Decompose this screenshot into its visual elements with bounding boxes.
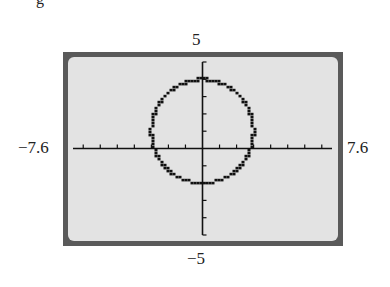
circle-pixel — [152, 137, 155, 140]
circle-pixel — [203, 77, 206, 80]
circle-pixel — [179, 83, 182, 86]
circle-pixel — [251, 143, 254, 146]
circle-pixel — [242, 98, 245, 101]
circle-pixel — [248, 107, 251, 110]
circle-pixel — [173, 86, 176, 89]
circle-pixel — [251, 119, 254, 122]
circle-pixel — [221, 179, 224, 182]
circle-pixel — [179, 176, 182, 179]
circle-pixel — [251, 146, 254, 149]
circle-pixel — [251, 125, 254, 128]
circle-pixel — [155, 152, 158, 155]
circle-pixel — [224, 83, 227, 86]
circle-pixel — [155, 110, 158, 113]
circle-pixel — [209, 182, 212, 185]
circle-pixel — [206, 182, 209, 185]
circle-pixel — [176, 86, 179, 89]
circle-pixel — [248, 113, 251, 116]
circle-pixel — [182, 83, 185, 86]
circle-pixel — [164, 95, 167, 98]
circle-pixel — [239, 95, 242, 98]
circle-pixel — [233, 89, 236, 92]
circle-pixel — [194, 80, 197, 83]
circle-pixel — [152, 122, 155, 125]
circle-pixel — [155, 107, 158, 110]
circle-pixel — [227, 176, 230, 179]
circle-pixel — [248, 155, 251, 158]
circle-pixel — [236, 92, 239, 95]
circle-pixel — [251, 116, 254, 119]
circle-pixel — [197, 80, 200, 83]
circle-pixel — [155, 155, 158, 158]
circle-pixel — [182, 179, 185, 182]
circle-pixel — [161, 161, 164, 164]
circle-pixel — [158, 155, 161, 158]
circle-pixel — [203, 182, 206, 185]
circle-pixel — [245, 104, 248, 107]
circle-pixel — [251, 137, 254, 140]
circle-pixel — [155, 113, 158, 116]
circle-pixel — [215, 80, 218, 83]
circle-pixel — [152, 125, 155, 128]
circle-pixel — [224, 176, 227, 179]
circle-pixel — [158, 158, 161, 161]
circle-pixel — [164, 167, 167, 170]
circle-pixel — [242, 164, 245, 167]
circle-pixel — [170, 89, 173, 92]
circle-pixel — [149, 131, 152, 134]
circle-pixel — [149, 134, 152, 137]
circle-pixel — [230, 86, 233, 89]
circle-pixel — [191, 80, 194, 83]
circle-pixel — [254, 131, 257, 134]
circle-pixel — [218, 83, 221, 86]
circle-pixel — [167, 170, 170, 173]
circle-pixel — [245, 101, 248, 104]
circle-pixel — [251, 140, 254, 143]
circle-pixel — [242, 101, 245, 104]
circle-pixel — [239, 167, 242, 170]
circle-pixel — [161, 98, 164, 101]
circle-pixel — [185, 80, 188, 83]
circle-pixel — [200, 77, 203, 80]
circle-pixel — [218, 179, 221, 182]
circle-pixel — [230, 89, 233, 92]
circle-pixel — [200, 182, 203, 185]
circle-pixel — [206, 80, 209, 83]
circle-pixel — [155, 149, 158, 152]
circle-pixel — [209, 80, 212, 83]
circle-pixel — [248, 152, 251, 155]
circle-pixel — [188, 179, 191, 182]
circle-pixel — [206, 77, 209, 80]
circle-pixel — [254, 134, 257, 137]
circle-pixel — [236, 167, 239, 170]
circle-pixel — [152, 119, 155, 122]
circle-pixel — [236, 170, 239, 173]
circle-pixel — [233, 170, 236, 173]
circle-pixel — [233, 173, 236, 176]
circle-pixel — [185, 179, 188, 182]
circle-pixel — [251, 134, 254, 137]
graph-plot — [0, 0, 390, 287]
circle-pixel — [212, 182, 215, 185]
circle-pixel — [158, 101, 161, 104]
circle-pixel — [194, 182, 197, 185]
circle-pixel — [164, 164, 167, 167]
circle-pixel — [215, 179, 218, 182]
circle-pixel — [242, 161, 245, 164]
circle-pixel — [191, 182, 194, 185]
circle-pixel — [167, 167, 170, 170]
circle-pixel — [188, 80, 191, 83]
circle-pixel — [167, 92, 170, 95]
circle-pixel — [161, 101, 164, 104]
circle-pixel — [227, 86, 230, 89]
circle-pixel — [173, 173, 176, 176]
circle-pixel — [152, 113, 155, 116]
circle-pixel — [152, 140, 155, 143]
circle-pixel — [230, 173, 233, 176]
circle-pixel — [152, 146, 155, 149]
circle-pixel — [248, 110, 251, 113]
circle-pixel — [218, 80, 221, 83]
circle-pixel — [251, 122, 254, 125]
circle-pixel — [251, 113, 254, 116]
circle-pixel — [185, 83, 188, 86]
